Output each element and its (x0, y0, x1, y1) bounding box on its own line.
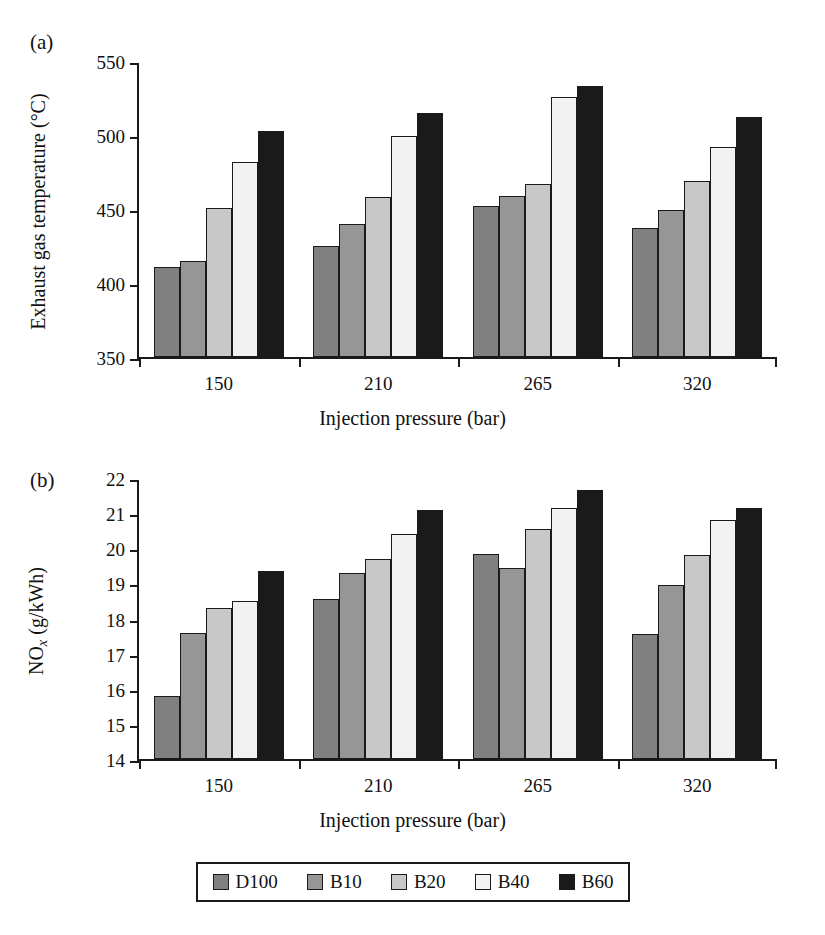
panel-a-x-axis-label: Injection pressure (bar) (0, 407, 825, 430)
bar-b40-320 (710, 147, 736, 357)
y-axis-tick (130, 585, 139, 587)
x-axis-tick-label: 150 (205, 373, 234, 395)
legend-label: D100 (236, 871, 278, 893)
y-axis-tick-label: 400 (97, 274, 126, 296)
legend-item-b60: B60 (559, 871, 614, 893)
y-axis-tick (130, 480, 139, 482)
bar-d100-210 (313, 599, 339, 759)
x-axis-tick (458, 357, 460, 367)
x-axis-tick (139, 759, 141, 769)
bar-b10-150 (180, 261, 206, 357)
panel-b-plot-area: 141516171819202122150210265320 (137, 480, 775, 761)
bar-b10-320 (658, 210, 684, 357)
y-axis-tick-label: 19 (106, 574, 125, 596)
panel-b-y-axis-label-prefix: NO (25, 646, 47, 675)
x-axis-tick (775, 357, 777, 367)
panel-a: (a) Exhaust gas temperature (°C) 3504004… (0, 0, 825, 440)
y-axis-tick (130, 515, 139, 517)
bar-b20-210 (365, 559, 391, 759)
legend-item-b10: B10 (307, 871, 362, 893)
legend-item-b40: B40 (475, 871, 530, 893)
panel-b-x-axis-label: Injection pressure (bar) (0, 809, 825, 832)
bar-b60-265 (577, 86, 603, 357)
y-axis-tick (130, 550, 139, 552)
bar-b10-265 (499, 568, 525, 759)
y-axis-tick (130, 63, 139, 65)
x-axis-tick-label: 150 (205, 775, 234, 797)
x-axis-tick-label: 320 (683, 775, 712, 797)
bar-d100-150 (154, 267, 180, 357)
panel-b-y-axis-label: NOx (g/kWh) (25, 566, 51, 674)
x-axis-tick (458, 759, 460, 769)
y-axis-tick (130, 359, 139, 361)
y-axis-tick-label: 18 (106, 610, 125, 632)
bar-b10-210 (339, 573, 365, 759)
bar-b10-265 (499, 196, 525, 357)
y-axis-tick-label: 450 (97, 200, 126, 222)
legend-label: B60 (582, 871, 614, 893)
bar-d100-320 (632, 634, 658, 759)
bar-b60-210 (417, 113, 443, 357)
x-axis-tick (139, 357, 141, 367)
bar-b20-265 (525, 184, 551, 357)
y-axis-tick-label: 17 (106, 645, 125, 667)
bar-b20-265 (525, 529, 551, 759)
bar-d100-210 (313, 246, 339, 357)
bar-b60-150 (258, 571, 284, 759)
y-axis-tick (130, 656, 139, 658)
x-axis-tick-label: 210 (364, 373, 393, 395)
y-axis-tick-label: 350 (97, 348, 126, 370)
x-axis-tick-label: 265 (524, 373, 553, 395)
y-axis-tick-label: 500 (97, 126, 126, 148)
y-axis-tick (130, 761, 139, 763)
bar-b40-265 (551, 97, 577, 357)
bar-b40-210 (391, 136, 417, 357)
y-axis-tick-label: 15 (106, 715, 125, 737)
legend-swatch-icon-b10 (307, 874, 323, 890)
x-axis-tick (299, 759, 301, 769)
legend-swatch-icon-b20 (391, 874, 407, 890)
x-axis-tick-label: 210 (364, 775, 393, 797)
bar-d100-150 (154, 696, 180, 759)
bar-b60-320 (736, 508, 762, 759)
legend-label: B20 (414, 871, 446, 893)
bar-b20-320 (684, 555, 710, 759)
y-axis-tick (130, 211, 139, 213)
panel-a-plot-area: 350400450500550150210265320 (137, 63, 775, 359)
bar-b40-320 (710, 520, 736, 759)
bar-b20-320 (684, 181, 710, 357)
panel-b-y-axis-label-subscript: x (34, 639, 50, 645)
panel-b: (b) NOx (g/kWh) 141516171819202122150210… (0, 440, 825, 840)
bar-d100-320 (632, 228, 658, 357)
y-axis-tick-label: 14 (106, 750, 125, 772)
y-axis-tick-label: 16 (106, 680, 125, 702)
bar-b10-320 (658, 585, 684, 759)
legend-label: B40 (498, 871, 530, 893)
bar-b10-210 (339, 224, 365, 357)
figure-container: (a) Exhaust gas temperature (°C) 3504004… (0, 0, 825, 935)
bar-b60-320 (736, 117, 762, 357)
legend-item-d100: D100 (213, 871, 278, 893)
panel-a-letter: (a) (30, 30, 53, 55)
legend: D100B10B20B40B60 (196, 862, 630, 902)
x-axis-tick (775, 759, 777, 769)
y-axis-tick-label: 550 (97, 52, 126, 74)
legend-item-b20: B20 (391, 871, 446, 893)
bar-b40-210 (391, 534, 417, 759)
legend-swatch-icon-d100 (213, 874, 229, 890)
panel-a-y-axis-label: Exhaust gas temperature (°C) (27, 93, 50, 329)
bar-d100-265 (473, 206, 499, 357)
bar-b60-150 (258, 131, 284, 357)
bar-b40-150 (232, 162, 258, 357)
y-axis-tick (130, 621, 139, 623)
y-axis-tick-label: 21 (106, 504, 125, 526)
bar-b20-150 (206, 208, 232, 357)
bar-b60-210 (417, 510, 443, 759)
bar-d100-265 (473, 554, 499, 759)
legend-label: B10 (330, 871, 362, 893)
y-axis-tick (130, 726, 139, 728)
legend-swatch-icon-b60 (559, 874, 575, 890)
x-axis-tick (299, 357, 301, 367)
bar-b40-150 (232, 601, 258, 759)
y-axis-tick (130, 285, 139, 287)
